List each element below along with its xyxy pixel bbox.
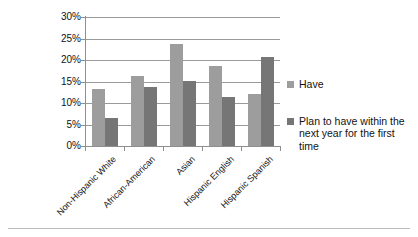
y-axis-tick-label: 0%	[45, 141, 81, 151]
bar-have	[248, 94, 261, 146]
x-axis-tick	[280, 147, 281, 151]
bar-group	[167, 17, 206, 146]
bar-have	[209, 66, 222, 146]
chart-legend: Have Plan to have within the next year f…	[287, 78, 415, 176]
y-axis-tick-label: 25%	[45, 34, 81, 44]
legend-entry-have: Have	[287, 78, 415, 91]
y-axis-tick-label: 15%	[45, 77, 81, 87]
y-axis-tick-label: 20%	[45, 55, 81, 65]
y-axis-tick-label: 30%	[45, 12, 81, 22]
legend-label: Have	[299, 78, 324, 91]
y-axis-labels: 30% 25% 20% 15% 10% 5% 0%	[39, 0, 81, 160]
x-axis-line	[85, 146, 281, 147]
y-axis-tick-label: 10%	[45, 98, 81, 108]
x-axis-tick	[85, 147, 86, 151]
bar-plan	[105, 118, 118, 146]
y-axis-line	[85, 16, 86, 147]
x-axis-tick	[241, 147, 242, 151]
bar-have	[92, 89, 105, 146]
bar-group	[128, 17, 167, 146]
y-axis-tick-label: 5%	[45, 120, 81, 130]
bar-group	[245, 17, 284, 146]
x-axis-tick	[163, 147, 164, 151]
bar-plan	[144, 87, 157, 146]
x-axis-category-label: Non-Hispanic White	[28, 154, 119, 237]
bar-plan	[183, 81, 196, 146]
x-axis-tick	[202, 147, 203, 151]
bar-plan	[222, 97, 235, 146]
bar-have	[131, 76, 144, 146]
bar-plan	[261, 57, 274, 146]
bar-group	[89, 17, 128, 146]
legend-swatch-icon	[287, 118, 294, 125]
bar-have	[170, 44, 183, 146]
plot-area	[85, 17, 280, 146]
bar-chart: 30% 25% 20% 15% 10% 5% 0%	[0, 0, 418, 237]
x-axis-tick	[124, 147, 125, 151]
x-axis-category-label: Hispanic English	[159, 154, 236, 231]
legend-entry-plan: Plan to have within the next year for th…	[287, 115, 415, 153]
bottom-divider	[8, 228, 410, 229]
bar-group	[206, 17, 245, 146]
x-axis-category-label: Hispanic Spanish	[197, 154, 275, 232]
legend-label: Plan to have within the next year for th…	[299, 115, 415, 153]
legend-swatch-icon	[287, 81, 294, 88]
